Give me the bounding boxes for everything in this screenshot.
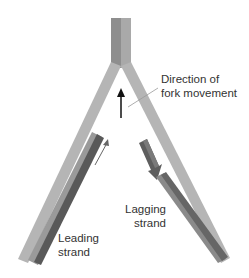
- parental-strand-right: [121, 18, 131, 68]
- okazaki-fragment-body: [139, 139, 162, 180]
- parental-duplex: [111, 18, 131, 68]
- direction-label-line2: fork movement: [161, 87, 238, 99]
- leading-arrow-head: [103, 139, 109, 146]
- parental-strand-left: [111, 18, 121, 68]
- lagging-label-line1: Lagging: [125, 203, 166, 215]
- direction-label-line1: Direction of: [161, 73, 220, 85]
- lagging-label-line2: strand: [134, 217, 166, 229]
- fork-arrow-head: [117, 88, 125, 97]
- leading-label-line2: strand: [58, 246, 90, 258]
- lagging-strand-dark: [161, 172, 228, 261]
- diagram-svg: Direction of fork movement Leading stran…: [0, 0, 249, 278]
- okazaki-fragment-arrow: [139, 139, 162, 180]
- fork-direction-arrow-icon: [117, 88, 125, 118]
- replication-fork-diagram: Direction of fork movement Leading stran…: [0, 0, 249, 278]
- leading-label-line1: Leading: [58, 232, 99, 244]
